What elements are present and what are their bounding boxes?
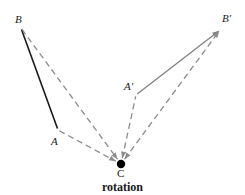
segment-CBprime: [125, 31, 220, 159]
vertex-label-a: A: [51, 136, 58, 147]
rotation-figure: B A C A' B' rotation: [0, 0, 245, 195]
vertex-label-b: B: [15, 14, 22, 25]
figure-caption: rotation: [0, 181, 245, 194]
segment-BA: [22, 29, 58, 128]
vertex-label-a-prime: A': [124, 81, 133, 92]
segment-BC: [22, 29, 118, 159]
figure-canvas: [0, 0, 245, 195]
segment-CAprime: [122, 96, 135, 158]
segment-AprimeBprime: [137, 31, 219, 94]
vertex-label-b-prime: B': [222, 13, 231, 24]
vertex-label-c: C: [117, 168, 124, 179]
